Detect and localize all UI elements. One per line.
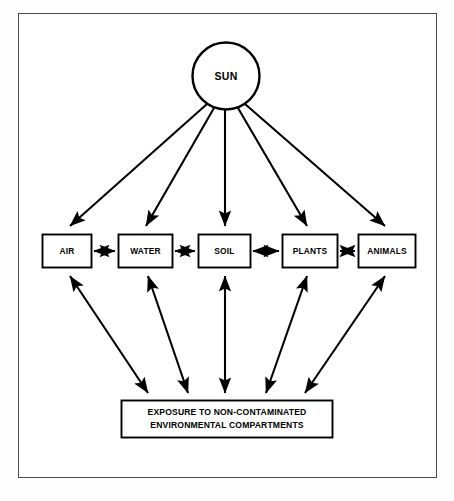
exposure-label-line1: EXPOSURE TO NON-CONTAMINATED (148, 407, 307, 417)
node-plants: PLANTS (283, 235, 338, 268)
exposure-box-shape (122, 401, 333, 438)
node-soil: SOIL (199, 235, 251, 268)
air-label: AIR (59, 246, 74, 256)
edge-air-exposure (70, 276, 148, 393)
sun-label: SUN (214, 70, 237, 82)
plants-label: PLANTS (293, 246, 328, 256)
edge-sun-to-animals (245, 104, 385, 226)
water-label: WATER (130, 246, 161, 256)
edge-water-exposure (148, 276, 188, 393)
node-sun: SUN (193, 43, 260, 110)
node-air: AIR (43, 235, 92, 268)
edge-sun-to-plants (238, 108, 307, 226)
edges-sun-to-compartments (70, 104, 385, 226)
diagram-canvas: SUN AIR WATER SOIL PLANTS ANIMALS EXPOSU… (0, 0, 454, 501)
soil-label: SOIL (214, 246, 234, 256)
node-water: WATER (119, 235, 173, 268)
edges-compartments-to-exposure (70, 276, 385, 393)
node-animals: ANIMALS (359, 235, 416, 268)
edge-plants-exposure (266, 276, 307, 393)
edge-animals-exposure (305, 276, 385, 393)
figure-root: SUN AIR WATER SOIL PLANTS ANIMALS EXPOSU… (0, 0, 454, 501)
node-exposure: EXPOSURE TO NON-CONTAMINATED ENVIRONMENT… (122, 401, 333, 438)
edge-sun-to-water (146, 108, 214, 226)
exposure-label-line2: ENVIRONMENTAL COMPARTMENTS (150, 420, 303, 430)
edge-sun-to-air (70, 104, 207, 226)
animals-label: ANIMALS (367, 246, 407, 256)
